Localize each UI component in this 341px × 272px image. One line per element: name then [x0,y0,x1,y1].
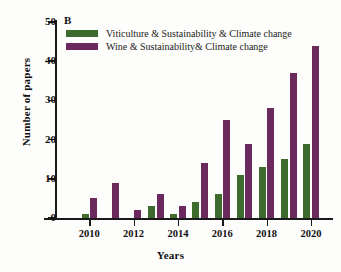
bar [179,206,186,218]
x-tick-mark [222,220,224,226]
bar [192,202,199,218]
x-tick-label: 2010 [67,228,111,239]
bar [134,210,141,218]
x-axis-label: Years [0,249,341,261]
x-axis-line [44,218,333,220]
y-tick-label: 50 [12,15,56,27]
bar [223,120,230,218]
legend-label-series-0: Viticulture & Sustainability & Climate c… [106,28,292,39]
bar [245,144,252,218]
bar [259,167,266,218]
bar [148,206,155,218]
legend-item: Wine & Sustainability& Climate change [66,40,292,53]
x-tick-mark [311,220,313,226]
legend: Viticulture & Sustainability & Climate c… [66,27,292,53]
legend-swatch-series-1 [66,43,98,50]
bar [303,144,310,218]
bar [201,163,208,218]
x-tick-mark [178,220,180,226]
legend-label-series-1: Wine & Sustainability& Climate change [106,41,268,52]
bar [157,194,164,218]
panel-label: B [64,14,71,26]
x-tick-label: 2020 [289,228,333,239]
y-tick-label: 30 [12,93,56,105]
y-tick-label: 0 [12,211,56,223]
x-tick-mark [134,220,136,226]
bar [215,194,222,218]
bar [312,46,319,218]
x-tick-label: 2016 [200,228,244,239]
x-tick-mark [267,220,269,226]
legend-item: Viticulture & Sustainability & Climate c… [66,27,292,40]
x-tick-label: 2018 [245,228,289,239]
x-tick-label: 2014 [156,228,200,239]
bar [90,198,97,218]
bar [82,214,89,218]
legend-swatch-series-0 [66,30,98,37]
y-tick-label: 10 [12,172,56,184]
bar [170,214,177,218]
bar [267,108,274,218]
bar [112,183,119,218]
x-tick-mark [89,220,91,226]
y-tick-label: 20 [12,133,56,145]
bar [290,73,297,218]
y-tick-label: 40 [12,54,56,66]
figure-panel-b: Number of papers Years 01020304050 20102… [0,0,341,272]
bar [237,175,244,218]
bar [281,159,288,218]
x-tick-label: 2012 [112,228,156,239]
